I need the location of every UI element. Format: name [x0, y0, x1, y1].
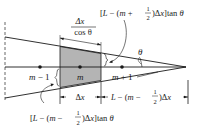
top-formula: [L − (m + 1 2 )Δx]tan θ — [100, 5, 184, 21]
angle-label: θ — [138, 47, 143, 57]
svg-text:2: 2 — [153, 98, 156, 105]
arrowhead-icon — [97, 43, 101, 45]
svg-text:1: 1 — [153, 88, 156, 95]
slant-num: Δx — [75, 16, 85, 26]
svg-text:2: 2 — [76, 119, 79, 126]
arrowhead-icon — [60, 38, 64, 40]
node-label-m: m — [77, 72, 84, 82]
svg-text:[L − (m −: [L − (m − — [30, 113, 63, 123]
dim-dx-label: Δx — [75, 92, 84, 102]
svg-text:1: 1 — [146, 5, 149, 12]
arrowhead-icon — [101, 96, 105, 99]
svg-text:L − (m −: L − (m − — [110, 92, 141, 102]
node-label-m-plus-1: m + 1 — [112, 72, 133, 82]
wedge-fin-diagram: m − 1 m m + 1 Δx cos θ [L − (m + 1 2 )Δx… — [0, 0, 197, 133]
arrowhead-icon — [184, 96, 188, 99]
arrowhead-icon — [97, 96, 101, 99]
slant-dim-line — [60, 38, 101, 45]
svg-text:[L − (m +: [L − (m + — [100, 8, 133, 18]
svg-text:2: 2 — [146, 14, 149, 21]
leader-bottom-formula — [41, 85, 52, 103]
node-m-plus-1 — [120, 65, 124, 69]
node-m — [78, 65, 82, 69]
svg-text:)Δx]tan θ: )Δx]tan θ — [152, 8, 184, 18]
svg-text:)Δx]tan θ: )Δx]tan θ — [82, 113, 114, 123]
arrowhead-icon — [60, 96, 64, 99]
arrowhead-icon — [109, 60, 113, 63]
svg-text:)Δx: )Δx — [159, 92, 171, 102]
svg-text:1: 1 — [76, 109, 79, 116]
arrowhead-icon — [51, 84, 55, 87]
brace-bottom — [55, 69, 59, 86]
node-label-m-minus-1: m − 1 — [29, 72, 50, 82]
bottom-formula: [L − (m − 1 2 )Δx]tan θ — [30, 109, 114, 126]
brace-top — [104, 54, 108, 66]
node-m-minus-1 — [38, 65, 42, 69]
slant-den: cos θ — [74, 27, 92, 37]
